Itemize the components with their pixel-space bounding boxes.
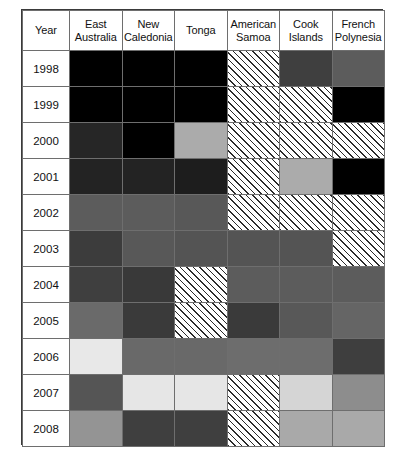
cell-fill — [123, 195, 175, 230]
matrix-cell-american-samoa-2000 — [227, 123, 280, 159]
cell-fill — [228, 87, 280, 122]
matrix-cell-east-australia-2000 — [70, 123, 123, 159]
cell-fill — [70, 159, 122, 194]
matrix-cell-french-polynesia-2004 — [332, 267, 385, 303]
column-header-american-samoa-line1: American — [228, 18, 280, 31]
cell-fill — [280, 339, 332, 374]
matrix-cell-east-australia-1998 — [70, 51, 123, 87]
cell-fill — [280, 303, 332, 338]
matrix-cell-tonga-2000 — [175, 123, 228, 159]
matrix-cell-east-australia-2002 — [70, 195, 123, 231]
matrix-cell-tonga-2004 — [175, 267, 228, 303]
column-header-east-australia-line1: East — [70, 18, 122, 31]
matrix-cell-east-australia-1999 — [70, 87, 123, 123]
matrix-cell-american-samoa-2008 — [227, 411, 280, 447]
header-row: Year East Australia New Caledonia Tonga — [23, 11, 385, 51]
matrix-cell-french-polynesia-2007 — [332, 375, 385, 411]
cell-fill — [228, 195, 280, 230]
cell-fill — [123, 123, 175, 158]
cell-fill — [280, 411, 332, 446]
column-header-year-label: Year — [23, 24, 69, 37]
matrix-cell-new-caledonia-2004 — [122, 267, 175, 303]
cell-fill — [70, 87, 122, 122]
table-row: 2008 — [23, 411, 385, 447]
cell-fill — [280, 87, 332, 122]
cell-fill — [228, 159, 280, 194]
matrix-cell-tonga-2007 — [175, 375, 228, 411]
column-header-american-samoa: American Samoa — [227, 11, 280, 51]
matrix-cell-east-australia-2003 — [70, 231, 123, 267]
table-row: 2001 — [23, 159, 385, 195]
matrix-cell-new-caledonia-2008 — [122, 411, 175, 447]
matrix-cell-french-polynesia-2001 — [332, 159, 385, 195]
column-header-american-samoa-line2: Samoa — [228, 31, 280, 44]
row-header-year: 2004 — [23, 267, 70, 303]
row-header-year: 2007 — [23, 375, 70, 411]
cell-fill — [333, 231, 385, 266]
matrix-cell-american-samoa-2001 — [227, 159, 280, 195]
row-header-year: 1998 — [23, 51, 70, 87]
matrix-cell-new-caledonia-2005 — [122, 303, 175, 339]
cell-fill — [123, 339, 175, 374]
matrix-cell-french-polynesia-2006 — [332, 339, 385, 375]
column-header-east-australia-line2: Australia — [70, 31, 122, 44]
cell-fill — [228, 303, 280, 338]
matrix-cell-east-australia-2004 — [70, 267, 123, 303]
cell-fill — [228, 267, 280, 302]
matrix-table: Year East Australia New Caledonia Tonga — [22, 10, 385, 447]
cell-fill — [333, 339, 385, 374]
matrix-cell-french-polynesia-2002 — [332, 195, 385, 231]
cell-fill — [175, 195, 227, 230]
column-header-cook-islands-line1: Cook — [280, 18, 332, 31]
matrix-cell-cook-islands-2000 — [280, 123, 333, 159]
cell-fill — [175, 375, 227, 410]
row-header-year: 2000 — [23, 123, 70, 159]
cell-fill — [175, 339, 227, 374]
cell-fill — [123, 159, 175, 194]
cell-fill — [123, 267, 175, 302]
cell-fill — [123, 87, 175, 122]
row-header-year: 2003 — [23, 231, 70, 267]
matrix-cell-cook-islands-2002 — [280, 195, 333, 231]
column-header-tonga-label: Tonga — [175, 24, 227, 37]
table-row: 1999 — [23, 87, 385, 123]
matrix-cell-american-samoa-2007 — [227, 375, 280, 411]
matrix-cell-tonga-2008 — [175, 411, 228, 447]
cell-fill — [70, 195, 122, 230]
matrix-cell-cook-islands-2008 — [280, 411, 333, 447]
cell-fill — [333, 303, 385, 338]
column-header-french-polynesia-line1: French — [333, 18, 385, 31]
row-header-year: 2006 — [23, 339, 70, 375]
matrix-cell-tonga-1999 — [175, 87, 228, 123]
matrix-cell-cook-islands-2001 — [280, 159, 333, 195]
row-header-year: 2001 — [23, 159, 70, 195]
cell-fill — [175, 51, 227, 86]
cell-fill — [228, 123, 280, 158]
matrix-cell-french-polynesia-2000 — [332, 123, 385, 159]
matrix-cell-american-samoa-2006 — [227, 339, 280, 375]
row-header-year: 1999 — [23, 87, 70, 123]
column-header-new-caledonia-line2: Caledonia — [123, 31, 175, 44]
table-row: 2005 — [23, 303, 385, 339]
matrix-cell-tonga-2002 — [175, 195, 228, 231]
matrix-cell-cook-islands-2006 — [280, 339, 333, 375]
cell-fill — [175, 303, 227, 338]
cell-fill — [333, 195, 385, 230]
table-row: 1998 — [23, 51, 385, 87]
matrix-cell-tonga-2005 — [175, 303, 228, 339]
cell-fill — [280, 123, 332, 158]
cell-fill — [333, 123, 385, 158]
cell-fill — [333, 87, 385, 122]
matrix-cell-east-australia-2006 — [70, 339, 123, 375]
cell-fill — [70, 267, 122, 302]
cell-fill — [280, 375, 332, 410]
cell-fill — [70, 51, 122, 86]
cell-fill — [175, 87, 227, 122]
column-header-east-australia: East Australia — [70, 11, 123, 51]
column-header-cook-islands: Cook Islands — [280, 11, 333, 51]
cell-fill — [228, 231, 280, 266]
cell-fill — [333, 51, 385, 86]
matrix-cell-american-samoa-1999 — [227, 87, 280, 123]
matrix-cell-cook-islands-2003 — [280, 231, 333, 267]
column-header-new-caledonia-line1: New — [123, 18, 175, 31]
